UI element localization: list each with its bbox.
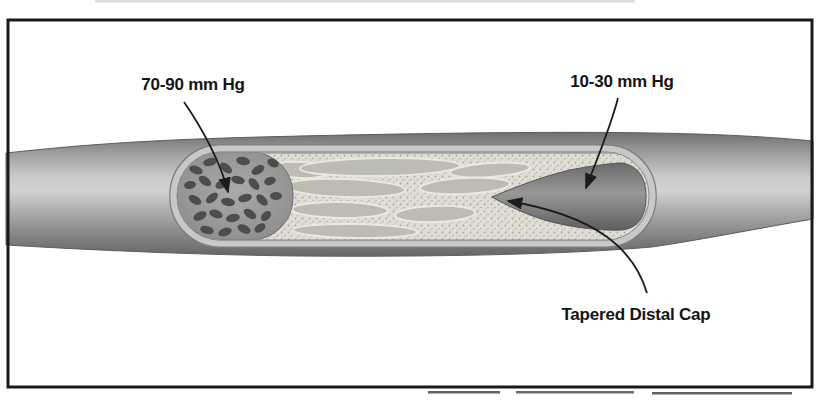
figure-panel: 70-90 mm Hg 10-30 mm Hg Tapered Distal C… (0, 0, 821, 400)
label-tapered-distal-cap: Tapered Distal Cap (561, 305, 710, 325)
label-proximal-pressure: 70-90 mm Hg (141, 75, 245, 95)
vessel-illustration (0, 0, 821, 400)
label-distal-pressure: 10-30 mm Hg (570, 72, 674, 92)
proximal-lumen (177, 152, 293, 240)
cutaway-opening (177, 152, 649, 240)
